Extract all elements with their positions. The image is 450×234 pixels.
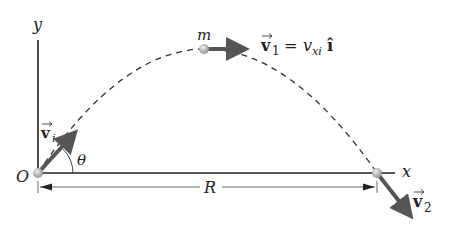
- svg-text:v: v: [260, 36, 271, 55]
- top-velocity-label: v 1 = v xi î: [260, 34, 333, 59]
- angle-label: θ: [77, 151, 86, 169]
- svg-text:î: î: [327, 36, 333, 55]
- svg-text:v: v: [303, 36, 312, 55]
- initial-velocity-label: v i: [40, 122, 56, 146]
- svg-text:v: v: [412, 192, 423, 211]
- range-label: R: [203, 178, 216, 197]
- landing-ball: [372, 168, 382, 178]
- svg-text:1: 1: [272, 44, 280, 58]
- svg-text:i: i: [52, 132, 56, 145]
- svg-text:xi: xi: [312, 45, 322, 58]
- mass-label: m: [197, 26, 211, 44]
- final-velocity-label: v 2: [412, 190, 432, 216]
- projectile-diagram: y x O θ R m v i v 1 = v xi î v 2: [0, 0, 450, 234]
- svg-text:v: v: [40, 124, 51, 142]
- trajectory-path: [38, 49, 377, 173]
- top-ball: [199, 44, 209, 54]
- y-axis-label: y: [32, 15, 43, 34]
- x-axis-label: x: [402, 162, 411, 181]
- svg-text:2: 2: [424, 201, 432, 215]
- svg-text:=: =: [284, 36, 297, 55]
- angle-arc: [63, 149, 73, 173]
- origin-label: O: [16, 167, 29, 186]
- origin-ball: [33, 168, 43, 178]
